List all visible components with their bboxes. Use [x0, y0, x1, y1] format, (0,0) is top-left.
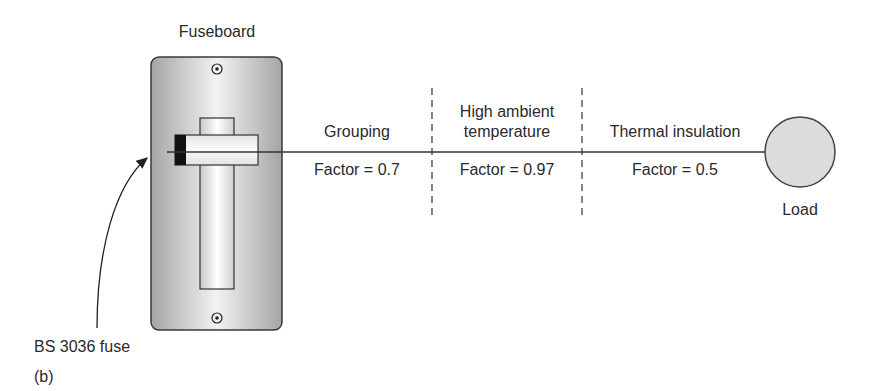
ambient-factor: Factor = 0.97: [432, 161, 582, 179]
ambient-title-line1: High ambient: [432, 103, 582, 121]
insulation-factor: Factor = 0.5: [584, 161, 766, 179]
fuse-label: BS 3036 fuse: [34, 338, 130, 356]
load-circle: [765, 117, 835, 187]
top-screw-icon: [212, 64, 222, 74]
insulation-title: Thermal insulation: [584, 123, 766, 141]
ambient-title-line2: temperature: [432, 123, 582, 141]
fuse-pointer-arrow: [97, 158, 147, 328]
fuseboard: [151, 57, 282, 330]
panel-label: (b): [34, 368, 54, 386]
grouping-title: Grouping: [282, 123, 432, 141]
fuseboard-label: Fuseboard: [166, 23, 268, 41]
fuse-holder-black-end: [175, 135, 186, 165]
fuse-holder: [175, 135, 258, 165]
load-label: Load: [770, 201, 830, 219]
diagram-canvas: [0, 0, 879, 391]
bottom-screw-icon: [212, 313, 222, 323]
grouping-factor: Factor = 0.7: [282, 161, 432, 179]
